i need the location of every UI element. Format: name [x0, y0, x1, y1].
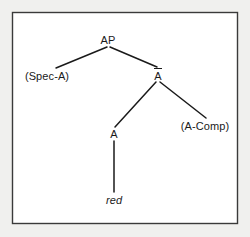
node-a-head: A: [110, 128, 117, 140]
diagram-border: [13, 13, 238, 224]
node-terminal-red: red: [106, 194, 122, 206]
figure-container: AP (Spec-A) A A (A-Comp) red: [0, 0, 250, 237]
node-a-comp: (A-Comp): [181, 120, 229, 132]
a-bar-glyph: A: [154, 68, 162, 82]
node-spec-a: (Spec-A): [25, 70, 69, 82]
overbar-mark: [154, 68, 162, 69]
node-ap: AP: [101, 34, 116, 46]
node-a-bar-label: A: [154, 70, 161, 82]
tree-diagram-svg: [0, 0, 250, 237]
node-a-bar: A: [154, 68, 162, 82]
